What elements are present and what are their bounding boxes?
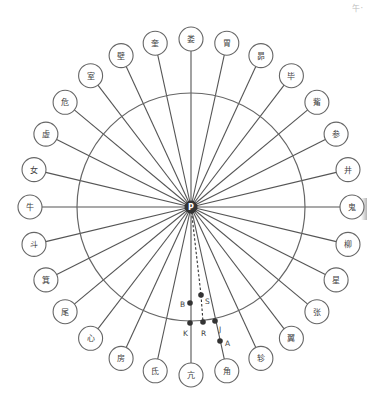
dashed-line [201,295,203,322]
mansion-label: 鬼 [340,195,364,219]
label-text: 虚 [42,129,50,139]
label-text: 壁 [117,51,125,61]
center-point-p: P [185,201,198,214]
label-text: 毕 [287,71,295,81]
point-label: B [180,300,185,309]
label-text: 星 [332,276,340,285]
spoke-line [126,207,191,348]
label-text: 井 [344,165,352,175]
label-text: 参 [332,129,340,139]
mansion-label: 壁 [109,44,133,68]
point-label: J [218,325,221,334]
mansion-label: 觜 [305,90,329,114]
label-text: 斗 [30,240,38,249]
mansion-label: 参 [324,122,348,146]
spoke-line [191,207,256,348]
mansion-label: 胃 [215,31,239,55]
mansion-label: 柳 [336,232,360,256]
label-text: 奎 [151,38,159,48]
spoke-line [57,140,191,208]
spoke-line [191,207,308,304]
label-text: 室 [87,71,95,81]
spoke-line [191,140,325,208]
mansion-label: 危 [53,90,77,114]
mansion-label: 角 [215,359,239,383]
label-text: 张 [313,308,321,317]
point-b [187,300,193,306]
spoke-line [57,207,191,275]
point-label: A [225,339,231,348]
point-a [217,338,223,344]
mansion-label: 虚 [34,122,58,146]
mansion-label: 室 [79,64,103,88]
point-k [187,320,193,326]
point-label: R [201,329,206,338]
mansion-label: 翼 [279,326,303,350]
mansion-diagram: 亢氐房心尾箕斗牛女虚危室壁奎娄胃昴毕觜参井鬼柳星张翼轸角 SBKRJA P [0,0,367,402]
label-text: 翼 [287,334,295,343]
mansion-label: 箕 [34,268,58,292]
mansion-label: 井 [336,158,360,182]
spoke-line [191,207,325,275]
label-text: 昴 [257,52,265,61]
label-text: 觜 [313,97,321,107]
label-text: 胃 [223,39,231,48]
mansion-label: 轸 [249,346,273,370]
point-label: S [205,297,210,306]
label-text: 娄 [187,34,195,44]
mansion-label: 氐 [143,359,167,383]
mansion-label: 心 [79,326,103,350]
label-text: 房 [117,353,125,363]
spoke-line [191,67,256,208]
point-label: K [183,329,189,338]
label-text: 亢 [187,370,195,380]
label-text: 心 [87,334,95,343]
spoke-line [74,110,191,207]
label-text: 危 [61,97,69,107]
spoke-line [126,67,191,208]
mansion-label: 斗 [22,232,46,256]
mansion-label: 牛 [18,195,42,219]
label-text: 鬼 [348,202,356,212]
center-label: P [188,203,194,212]
dashed-lines [191,207,203,322]
mansion-label: 尾 [53,300,77,324]
label-text: 女 [30,165,38,175]
dashed-line [191,207,201,295]
label-text: 角 [223,366,231,376]
point-s [198,292,204,298]
mansion-label: 星 [324,268,348,292]
label-text: 轸 [257,353,265,363]
spoke-line [74,207,191,304]
mansion-label: 毕 [279,64,303,88]
point-r [200,319,206,325]
mansion-label: 女 [22,158,46,182]
label-text: 尾 [61,308,69,317]
label-text: 箕 [42,275,50,285]
label-text: 柳 [344,239,352,249]
label-text: 氐 [151,366,159,376]
mansion-label: 奎 [143,31,167,55]
mansion-label: 亢 [179,363,203,387]
mansion-label: 张 [305,300,329,324]
spoke-line [191,207,224,359]
mansion-label: 娄 [179,27,203,51]
spoke-line [158,55,191,207]
mansion-label: 房 [109,346,133,370]
label-text: 牛 [26,202,34,212]
spoke-line [191,110,308,207]
point-j [212,318,218,324]
spoke-line [191,55,224,207]
mansion-label: 昴 [249,44,273,68]
